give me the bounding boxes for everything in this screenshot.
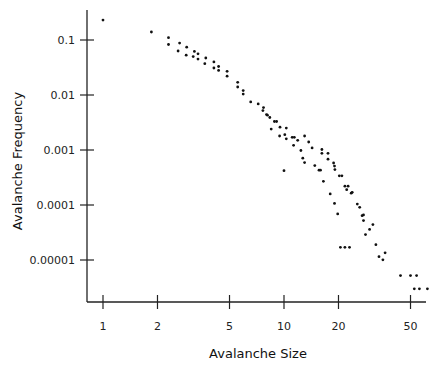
data-point: [193, 50, 196, 53]
x-axis: 125102050: [87, 295, 426, 333]
data-point: [270, 128, 273, 131]
data-point: [217, 69, 220, 72]
y-axis: 0.10.010.0010.00010.00001: [30, 10, 95, 302]
data-point: [426, 287, 429, 290]
data-point: [249, 101, 252, 104]
data-point: [262, 109, 265, 112]
data-point: [279, 126, 282, 129]
data-point: [283, 169, 286, 172]
data-point: [336, 213, 339, 216]
data-point: [384, 251, 387, 254]
y-tick-label: 0.1: [58, 34, 76, 47]
avalanche-log-log-scatter-chart: 0.10.010.0010.00010.00001 125102050 Aval…: [0, 0, 437, 365]
y-axis-title: Avalanche Frequency: [10, 92, 25, 231]
data-point: [327, 152, 330, 155]
data-point: [362, 214, 365, 217]
data-point: [382, 258, 385, 261]
data-point: [285, 127, 288, 130]
data-point: [364, 233, 367, 236]
data-point: [339, 246, 342, 249]
x-tick-label: 20: [331, 320, 345, 333]
data-point: [268, 116, 271, 119]
data-point: [236, 81, 239, 84]
x-tick-label: 10: [277, 320, 291, 333]
data-point: [226, 70, 229, 73]
data-point: [372, 223, 375, 226]
data-point: [415, 274, 418, 277]
data-point: [321, 148, 324, 151]
data-point: [167, 43, 170, 46]
data-point: [185, 46, 188, 49]
data-point: [307, 141, 310, 144]
data-point: [356, 203, 359, 206]
data-point: [192, 55, 195, 58]
data-point: [333, 165, 336, 168]
data-point: [362, 219, 365, 222]
x-axis-ticks: 125102050: [100, 295, 418, 333]
data-point: [303, 161, 306, 164]
data-point: [313, 164, 316, 167]
data-point: [150, 31, 153, 34]
data-point: [344, 185, 347, 188]
data-point: [413, 287, 416, 290]
data-point: [338, 174, 341, 177]
data-point: [321, 152, 324, 155]
data-point: [368, 228, 371, 231]
data-point: [345, 188, 348, 191]
data-point: [418, 287, 421, 290]
y-tick-label: 0.01: [51, 89, 76, 102]
data-point: [266, 114, 269, 117]
data-point: [242, 93, 245, 96]
data-point: [348, 246, 351, 249]
data-point: [334, 168, 337, 171]
data-point: [197, 52, 200, 55]
data-point: [293, 136, 296, 139]
data-point: [217, 65, 220, 68]
x-tick-label: 1: [100, 320, 107, 333]
data-point: [275, 120, 278, 123]
data-point: [332, 162, 335, 165]
x-tick-label: 2: [154, 320, 161, 333]
data-point: [322, 180, 325, 183]
data-point: [303, 135, 306, 138]
data-point: [185, 54, 188, 57]
data-point: [344, 246, 347, 249]
data-point: [358, 206, 361, 209]
y-tick-label: 0.001: [44, 144, 76, 157]
data-point: [409, 274, 412, 277]
data-point: [177, 50, 180, 53]
data-point: [204, 57, 207, 60]
data-point: [329, 193, 332, 196]
x-tick-label: 5: [226, 320, 233, 333]
x-tick-label: 50: [404, 320, 418, 333]
data-point: [213, 61, 216, 64]
data-point: [375, 243, 378, 246]
data-point: [341, 174, 344, 177]
y-axis-ticks: 0.10.010.0010.00010.00001: [30, 34, 95, 267]
data-point: [262, 106, 265, 109]
data-point: [236, 86, 239, 89]
data-point: [242, 89, 245, 92]
data-point: [296, 139, 299, 142]
y-tick-label: 0.00001: [30, 254, 76, 267]
data-point: [226, 75, 229, 78]
data-point: [283, 133, 286, 136]
y-tick-label: 0.0001: [37, 199, 76, 212]
data-point: [257, 103, 260, 106]
data-point: [167, 36, 170, 39]
data-point: [178, 42, 181, 45]
data-point: [292, 144, 295, 147]
data-point: [399, 274, 402, 277]
data-point: [278, 135, 281, 138]
data-point: [197, 58, 200, 61]
data-point: [311, 147, 314, 150]
data-point: [333, 202, 336, 205]
data-point: [319, 169, 322, 172]
data-point: [327, 158, 330, 161]
data-point: [285, 137, 288, 140]
data-point: [300, 149, 303, 152]
data-point: [351, 191, 354, 194]
data-point: [203, 62, 206, 65]
data-points: [102, 19, 429, 290]
data-point: [347, 185, 350, 188]
